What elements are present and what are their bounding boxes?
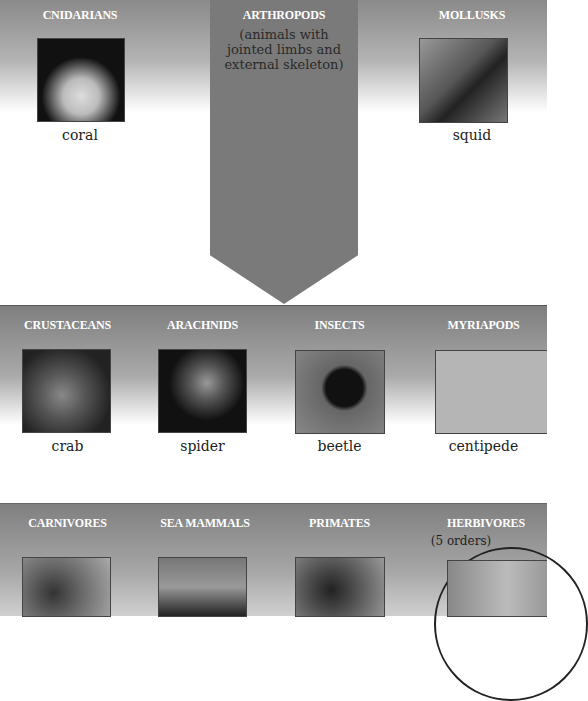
arthropods-subtitle-1: (animals with	[210, 27, 358, 42]
centipede-caption: centipede	[420, 438, 547, 454]
beetle-caption: beetle	[277, 438, 402, 454]
crab-photo	[22, 349, 111, 433]
arthropods-title: ARTHROPODS	[210, 8, 358, 23]
orangutan-photo	[295, 557, 385, 617]
crustaceans-title: CRUSTACEANS	[5, 318, 130, 333]
spider-caption: spider	[140, 438, 265, 454]
spider-photo	[158, 349, 247, 433]
coral-photo	[37, 38, 125, 122]
beetle-photo	[295, 350, 385, 434]
centipede-photo	[435, 350, 547, 434]
orca-photo	[158, 557, 247, 617]
sea-mammals-title: SEA MAMMALS	[140, 516, 270, 531]
squid-caption: squid	[412, 127, 532, 143]
cnidarians-title: CNIDARIANS	[20, 8, 140, 23]
arthropods-subtitle-3: external skeleton)	[210, 57, 358, 72]
primates-title: PRIMATES	[277, 516, 402, 531]
insects-title: INSECTS	[277, 318, 402, 333]
coral-caption: coral	[20, 127, 140, 143]
carnivores-title: CARNIVORES	[5, 516, 130, 531]
herbivores-subtitle: (5 orders)	[425, 534, 497, 549]
mollusks-title: MOLLUSKS	[412, 8, 532, 23]
deer-photo	[447, 560, 547, 617]
herbivores-title: HERBIVORES	[425, 516, 547, 531]
crab-caption: crab	[5, 438, 130, 454]
arachnids-title: ARACHNIDS	[140, 318, 265, 333]
lion-photo	[22, 557, 111, 617]
squid-photo	[419, 38, 508, 123]
arthropods-subtitle-2: jointed limbs and	[210, 42, 358, 57]
myriapods-title: MYRIAPODS	[420, 318, 547, 333]
